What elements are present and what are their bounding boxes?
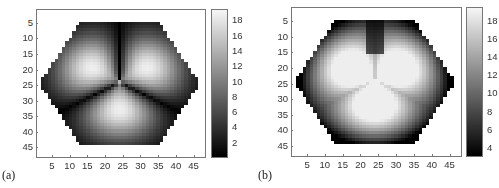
y-tick-mark — [291, 130, 293, 131]
x-tick-mark — [325, 154, 326, 156]
x-tick-mark — [450, 154, 451, 156]
y-tick-mark — [291, 52, 293, 53]
heatmap-image-b — [292, 8, 461, 156]
y-tick-label: 35 — [268, 110, 288, 120]
y-tick-label: 20 — [268, 63, 288, 73]
x-tick-label: 10 — [317, 160, 333, 170]
colorbar-tick-label: 18 — [487, 16, 498, 26]
y-tick-mark — [291, 68, 293, 69]
panel-b: 5101520253035404551015202530354045468101… — [0, 0, 499, 188]
y-tick-mark — [291, 99, 293, 100]
y-tick-mark — [291, 37, 293, 38]
x-tick-label: 15 — [335, 160, 351, 170]
x-tick-mark — [360, 154, 361, 156]
colorbar-tick-label: 12 — [487, 70, 498, 80]
x-tick-mark — [307, 154, 308, 156]
y-tick-label: 10 — [268, 32, 288, 42]
y-tick-mark — [291, 21, 293, 22]
y-tick-mark — [291, 115, 293, 116]
heatmap-axes-b — [291, 7, 462, 157]
x-tick-mark — [343, 154, 344, 156]
colorbar-tick-label: 16 — [487, 34, 498, 44]
panel-label-b: (b) — [258, 168, 272, 183]
y-tick-mark — [291, 84, 293, 85]
colorbar-tick-label: 6 — [487, 125, 492, 135]
x-tick-label: 40 — [424, 160, 440, 170]
colorbar-tick-label: 10 — [487, 88, 498, 98]
y-tick-label: 30 — [268, 94, 288, 104]
y-tick-mark — [291, 146, 293, 147]
x-tick-label: 30 — [388, 160, 404, 170]
colorbar-tick-label: 8 — [487, 107, 492, 117]
colorbar-gradient-b — [467, 8, 482, 156]
y-tick-label: 5 — [268, 16, 288, 26]
x-tick-mark — [396, 154, 397, 156]
y-tick-label: 45 — [268, 141, 288, 151]
colorbar-b — [466, 7, 483, 157]
x-tick-mark — [432, 154, 433, 156]
x-tick-label: 5 — [299, 160, 315, 170]
colorbar-tick-label: 4 — [487, 143, 492, 153]
y-tick-label: 15 — [268, 47, 288, 57]
x-tick-mark — [414, 154, 415, 156]
x-tick-label: 45 — [442, 160, 458, 170]
x-tick-label: 25 — [370, 160, 386, 170]
colorbar-tick-label: 14 — [487, 52, 498, 62]
x-tick-label: 35 — [406, 160, 422, 170]
x-tick-label: 20 — [352, 160, 368, 170]
y-tick-label: 25 — [268, 79, 288, 89]
x-tick-mark — [378, 154, 379, 156]
y-tick-label: 40 — [268, 125, 288, 135]
